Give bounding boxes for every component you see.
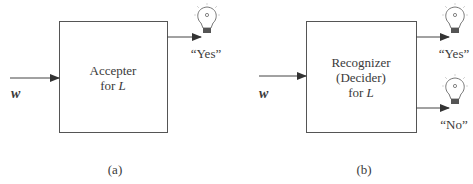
- no-label: “No”: [431, 117, 473, 132]
- caption-b: (b): [349, 162, 379, 177]
- input-label-w: w: [259, 86, 268, 101]
- language-var: L: [119, 78, 126, 93]
- lightbulb-icon: [442, 3, 468, 33]
- caption-a: (a): [100, 162, 130, 177]
- input-label-w: w: [11, 86, 20, 101]
- box-text-line: Recognizer: [306, 55, 416, 70]
- box-text-line: Accepter: [59, 63, 167, 78]
- box-text-line: for L: [59, 78, 167, 93]
- box-text: for: [100, 78, 118, 93]
- yes-label: “Yes”: [183, 46, 229, 61]
- box-text: for: [348, 85, 366, 100]
- lightbulb-icon: [442, 74, 468, 104]
- lightbulb-icon: [194, 3, 220, 33]
- accepter-label: Accepter for L: [59, 63, 167, 93]
- box-text-line: (Decider): [306, 70, 416, 85]
- box-text-line: for L: [306, 85, 416, 100]
- yes-label: “Yes”: [431, 46, 473, 61]
- language-var: L: [367, 85, 374, 100]
- recognizer-label: Recognizer (Decider) for L: [306, 55, 416, 100]
